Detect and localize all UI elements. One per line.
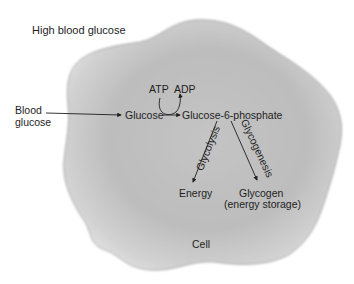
glucose-6-phosphate-label: Glucose-6-phosphate (182, 109, 282, 121)
atp-label: ATP (149, 83, 169, 95)
glucose-label: Glucose (125, 109, 164, 121)
cell-label: Cell (192, 238, 210, 250)
blood-glucose-label-line1: Blood (15, 104, 42, 116)
high-blood-glucose-label: High blood glucose (32, 24, 126, 36)
energy-label: Energy (179, 187, 212, 199)
energy-storage-label: (energy storage) (224, 198, 301, 210)
cell-shape (0, 0, 354, 284)
adp-label: ADP (174, 83, 196, 95)
blood-glucose-label-line2: glucose (15, 116, 51, 128)
diagram: High blood glucose Blood glucose Glucose… (0, 0, 354, 284)
